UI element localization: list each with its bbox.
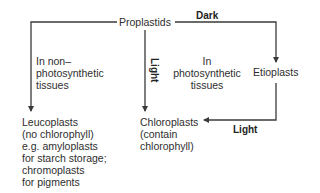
- node-etioplasts: Etioplasts: [253, 66, 299, 78]
- annotation-photosynthetic: In photosynthetic tissues: [172, 55, 242, 91]
- annotation-non-photosynthetic: In non– photosynthetic tissues: [36, 55, 104, 91]
- edge-label-light-vertical: Light: [149, 58, 160, 82]
- node-leucoplasts: Leucoplasts (no chlorophyll) e.g. amylop…: [22, 116, 107, 188]
- edge-label-light-bottom: Light: [233, 124, 257, 136]
- node-chloroplasts: Chloroplasts (contain chlorophyll): [140, 116, 198, 152]
- edge-label-dark: Dark: [196, 10, 218, 22]
- node-proplastids: Proplastids: [119, 16, 171, 28]
